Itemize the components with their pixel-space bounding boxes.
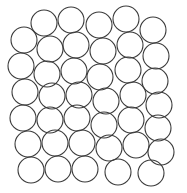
- packing-canvas: [0, 0, 187, 193]
- circle-packing-figure: [0, 0, 187, 193]
